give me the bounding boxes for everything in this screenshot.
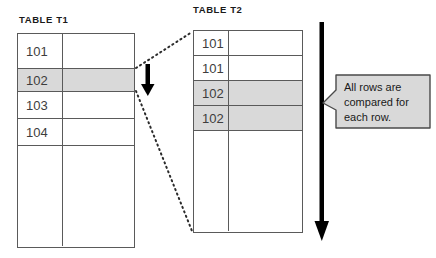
table-t2: 101 101 102 102 <box>193 30 303 233</box>
table-row <box>18 146 134 246</box>
callout-line-2: compared for <box>344 95 428 110</box>
table-row: 102 <box>194 106 302 131</box>
table-t2-row-1-key: 101 <box>194 56 229 80</box>
table-row: 104 <box>18 119 134 146</box>
down-arrow-large-icon <box>315 22 330 241</box>
table-t2-row-0-value <box>229 31 302 55</box>
table-row: 102 <box>194 81 302 106</box>
table-t1-row-4-value <box>63 146 134 246</box>
table-t2-row-3-key: 102 <box>194 106 229 130</box>
table-t1-row-2-key: 103 <box>18 92 63 118</box>
table-t1: 101 102 103 104 <box>17 33 135 248</box>
table-t1-row-1-key: 102 <box>18 69 63 91</box>
table-t1-row-3-value <box>63 119 134 145</box>
dashed-connector-top <box>136 32 192 68</box>
table-row <box>194 131 302 231</box>
down-arrow-icon <box>141 64 155 96</box>
diagram-canvas: TABLE T1 101 102 103 104 TABLE T2 101 <box>0 0 436 258</box>
table-t1-row-0-key: 101 <box>18 34 63 68</box>
table-row: 103 <box>18 92 134 119</box>
table-t1-row-3-key: 104 <box>18 119 63 145</box>
table-t1-row-2-value <box>63 92 134 118</box>
table-t1-row-4-key <box>18 146 63 246</box>
table-t1-row-0-value <box>63 34 134 68</box>
table-row: 101 <box>194 56 302 81</box>
table-t2-row-0-key: 101 <box>194 31 229 55</box>
table-t1-label: TABLE T1 <box>19 14 68 25</box>
callout-line-1: All rows are <box>344 80 428 95</box>
table-t1-row-1-value <box>63 69 134 91</box>
table-row: 102 <box>18 69 134 92</box>
table-row: 101 <box>18 34 134 69</box>
table-t2-row-3-value <box>229 106 302 130</box>
table-t2-label: TABLE T2 <box>193 4 242 15</box>
table-t2-row-2-key: 102 <box>194 81 229 105</box>
table-t2-row-4-key <box>194 131 229 231</box>
table-t2-row-1-value <box>229 56 302 80</box>
callout-line-3: each row. <box>344 110 428 125</box>
table-row: 101 <box>194 31 302 56</box>
table-t2-row-2-value <box>229 81 302 105</box>
table-t2-row-4-value <box>229 131 302 231</box>
dashed-connector-bottom <box>136 91 192 231</box>
callout-text: All rows are compared for each row. <box>344 80 428 125</box>
